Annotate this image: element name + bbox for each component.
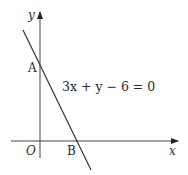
x-axis-label: x [169,144,176,158]
coordinate-diagram: y x O A B 3x + y − 6 = 0 [0,0,188,175]
point-b-label: B [67,144,76,158]
y-axis-label: y [27,8,35,22]
line-equation: 3x + y − 6 = 0 [62,79,155,94]
origin-label: O [26,144,36,158]
point-a-label: A [27,61,37,75]
